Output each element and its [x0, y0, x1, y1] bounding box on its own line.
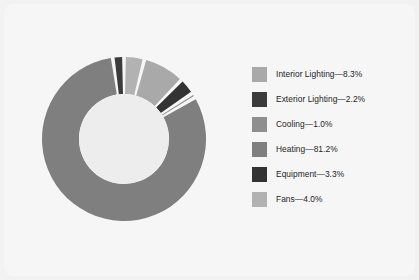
legend-color-swatch: [252, 117, 267, 132]
legend-color-swatch: [252, 167, 267, 182]
legend-item[interactable]: Fans—4.0%: [252, 191, 412, 207]
legend-item[interactable]: Interior Lighting—8.3%: [252, 66, 412, 82]
chart-card: Interior Lighting—8.3%Exterior Lighting—…: [4, 4, 415, 276]
legend-color-swatch: [252, 142, 267, 157]
chart-legend: Interior Lighting—8.3%Exterior Lighting—…: [252, 66, 412, 216]
legend-item[interactable]: Cooling—1.0%: [252, 116, 412, 132]
donut-center-hole: [79, 94, 169, 184]
legend-item-label: Cooling—1.0%: [276, 119, 332, 129]
legend-color-swatch: [252, 92, 267, 107]
legend-item-label: Exterior Lighting—2.2%: [276, 94, 365, 104]
donut-chart: [38, 33, 210, 245]
legend-item[interactable]: Exterior Lighting—2.2%: [252, 91, 412, 107]
donut-chart-area: [4, 4, 244, 276]
legend-item-label: Interior Lighting—8.3%: [276, 69, 362, 79]
legend-item[interactable]: Equipment—3.3%: [252, 166, 412, 182]
legend-item-label: Fans—4.0%: [276, 194, 323, 204]
legend-item[interactable]: Heating—81.2%: [252, 141, 412, 157]
legend-color-swatch: [252, 67, 267, 82]
legend-item-label: Equipment—3.3%: [276, 169, 344, 179]
legend-item-label: Heating—81.2%: [276, 144, 338, 154]
legend-color-swatch: [252, 192, 267, 207]
